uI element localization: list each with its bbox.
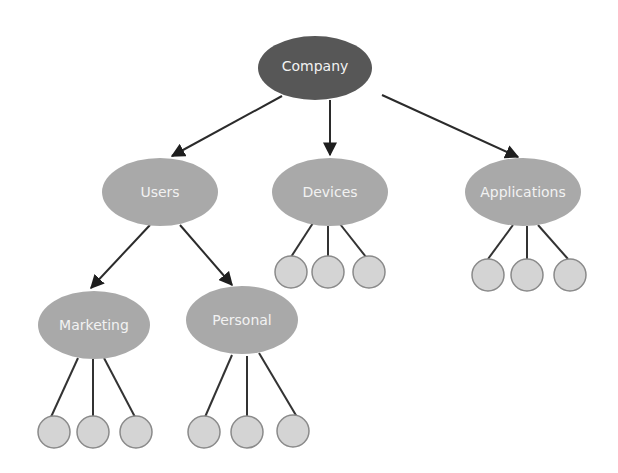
node-personal: Personal xyxy=(186,286,298,354)
leaf-devices-1 xyxy=(275,256,307,288)
node-company-label: Company xyxy=(282,58,349,74)
node-personal-label: Personal xyxy=(212,312,272,328)
marketing-leaf-edges xyxy=(51,358,135,417)
arrow-users-marketing xyxy=(91,225,150,288)
node-users: Users xyxy=(102,158,218,226)
node-company: Company xyxy=(258,36,372,100)
arrow-company-applications xyxy=(382,95,518,157)
node-applications: Applications xyxy=(465,158,581,226)
leaf-applications-1 xyxy=(472,259,504,291)
applications-leaf-edges xyxy=(488,225,568,259)
node-applications-label: Applications xyxy=(480,184,566,200)
leaf-marketing-1 xyxy=(38,416,70,448)
arrow-company-users xyxy=(172,96,282,156)
devices-leaf-edges xyxy=(291,223,366,257)
node-devices-label: Devices xyxy=(302,184,357,200)
node-marketing: Marketing xyxy=(38,291,150,359)
leaf-marketing-2 xyxy=(77,416,109,448)
arrow-users-personal xyxy=(180,225,232,285)
leaf-devices-2 xyxy=(312,256,344,288)
org-tree-diagram: Company Users Devices Applications Marke… xyxy=(0,0,618,473)
leaf-applications-2 xyxy=(511,259,543,291)
leaf-personal-1 xyxy=(188,416,220,448)
leaf-personal-2 xyxy=(231,416,263,448)
node-marketing-label: Marketing xyxy=(59,317,129,333)
node-devices: Devices xyxy=(272,158,388,226)
leaf-personal-3 xyxy=(277,415,309,447)
node-users-label: Users xyxy=(140,184,179,200)
personal-leaf-edges xyxy=(205,353,297,417)
leaf-devices-3 xyxy=(353,256,385,288)
leaf-marketing-3 xyxy=(120,416,152,448)
leaf-applications-3 xyxy=(554,259,586,291)
